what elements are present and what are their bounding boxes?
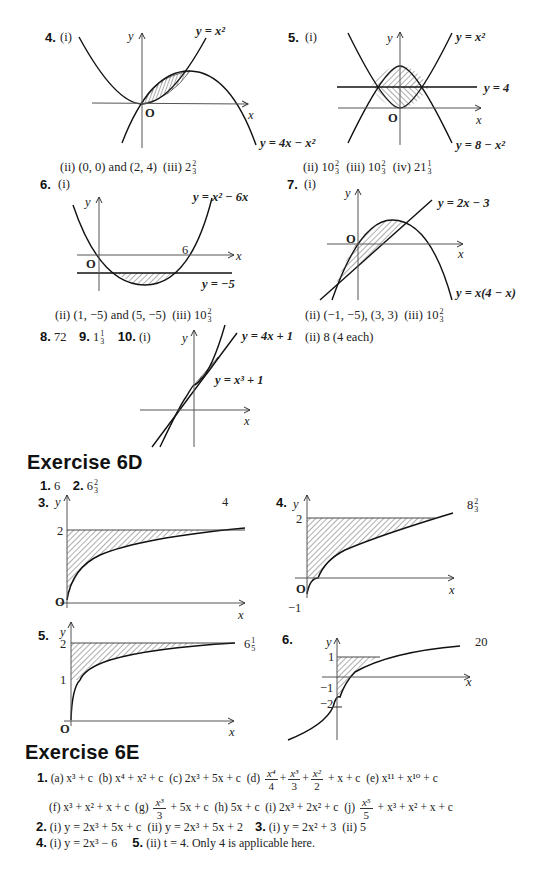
ex6d-q5-x-axis-label: x xyxy=(229,725,235,740)
ex6e-q1g-rest: + 5x + c xyxy=(170,801,208,813)
q9-answer: 1 xyxy=(93,330,99,344)
graph-ex6d-q6 xyxy=(270,620,555,740)
ex6d-q4-origin-label: O xyxy=(296,582,306,597)
ex6e-question-4-number: 4. xyxy=(36,835,47,850)
q6-y-axis-label: y xyxy=(85,195,91,210)
ex6d-q5-tick-1: 1 xyxy=(60,673,66,688)
ex6e-question-3-number: 3. xyxy=(255,819,266,834)
q10-curve-label: y = x³ + 1 xyxy=(215,373,264,388)
ex6e-question-5-number: 5. xyxy=(132,835,143,850)
q6-curve-label: y = x² − 6x xyxy=(193,190,248,205)
q10-answer-ii: (ii) 8 (4 each) xyxy=(305,330,373,345)
q10-y-axis-label: y xyxy=(182,331,188,346)
ex6e-q1h-answer: (h) 5x + c xyxy=(214,801,259,813)
q5-y-axis-label: y xyxy=(387,31,393,46)
ex6d-q4-x-axis-label: x xyxy=(449,583,455,598)
graph-ex6d-q3 xyxy=(0,490,270,600)
ex6e-q1b-answer: (b) x⁴ + x² + c xyxy=(99,772,164,784)
q5-line-label: y = 4 xyxy=(484,81,509,96)
ex6e-q1d-label: (d) xyxy=(247,772,260,784)
fraction: 23 xyxy=(208,308,212,324)
ex6e-q1d-rest: + x + c xyxy=(328,772,360,784)
ex6e-q1c-answer: (c) 2x³ + 5x + c xyxy=(169,772,241,784)
graph-q7 xyxy=(270,155,555,300)
ex6d-q3-origin-label: O xyxy=(55,595,65,610)
ex6e-q1j-label: (j) xyxy=(344,801,355,813)
q6-answer-iii: (iii) 10 xyxy=(172,308,206,322)
q7-answers: (ii) (−1, −5), (3, 3) (iii) 1023 xyxy=(305,308,445,324)
q5-origin-label: O xyxy=(388,111,398,126)
fraction: 23 xyxy=(440,308,444,324)
ex6d-q5-answer-whole: 6 xyxy=(244,637,250,651)
q7-x-axis-label: x xyxy=(458,247,464,262)
ex6e-q5-answer: (ii) t = 4. Only 4 is applicable here. xyxy=(146,836,315,850)
graph-q6 xyxy=(0,155,280,300)
graph-q5 xyxy=(270,0,555,155)
ex6e-q4-answer: (i) y = 2x³ − 6 xyxy=(50,836,117,850)
ex6e-question-1-number: 1. xyxy=(37,770,48,785)
fraction: 15 xyxy=(251,637,255,653)
exercise-6d-heading: Exercise 6D xyxy=(27,451,143,474)
q4-x-axis-label: x xyxy=(248,108,254,123)
ex6d-q3-tick-2: 2 xyxy=(57,524,63,539)
ex6e-q3-answer: (i) y = 2x² + 3 (ii) 5 xyxy=(269,820,366,834)
ex6e-q1e-answer: (e) x¹¹ + x¹⁰ + c xyxy=(366,772,438,784)
ex6d-q6-tick-minus1: −1 xyxy=(320,681,333,696)
q10-x-axis-label: x xyxy=(244,414,250,429)
q10-line-label: y = 4x + 1 xyxy=(242,329,293,344)
ex6d-q4-tick-2: 2 xyxy=(296,512,302,527)
q5-x-axis-label: x xyxy=(476,113,482,128)
ex6e-q1j-rest: + x³ + x² + x + c xyxy=(378,801,453,813)
ex6d-q6-answer: 20 xyxy=(475,635,488,650)
fraction: x³3 xyxy=(288,767,300,792)
fraction: 13 xyxy=(100,330,104,346)
q6-answers: (ii) (1, −5) and (5, −5) (iii) 1023 xyxy=(55,308,213,324)
q7-answer-ii: (ii) (−1, −5), (3, 3) xyxy=(305,308,398,322)
q6-x-axis-label: x xyxy=(236,249,242,264)
ex6d-q4-answer: 823 xyxy=(467,498,479,514)
fraction: x⁵5 xyxy=(360,796,373,821)
q7-y-axis-label: y xyxy=(345,186,351,201)
q5-curve2-label: y = 8 − x² xyxy=(456,138,505,153)
ex6e-question-2-number: 2. xyxy=(36,819,47,834)
q6-answer-ii: (ii) (1, −5) and (5, −5) xyxy=(55,308,166,322)
ex6e-q1-line2: (f) x³ + x² + x + c (g) x³3 + 5x + c (h)… xyxy=(49,796,453,821)
ex6e-q1i-answer: (i) 2x³ + 2x² + c xyxy=(265,801,338,813)
fraction: x²2 xyxy=(311,767,323,792)
ex6d-q4-y-axis-label: y xyxy=(293,497,299,512)
ex6d-q4-answer-whole: 8 xyxy=(467,498,473,512)
ex6d-q6-tick-1: 1 xyxy=(328,650,334,665)
graph-ex6d-q4 xyxy=(270,490,555,600)
question-9-number: 9. xyxy=(79,329,90,344)
graph-ex6d-q5 xyxy=(0,620,270,735)
q8-answer: 72 xyxy=(54,330,67,344)
graph-q4 xyxy=(0,0,280,155)
ex6e-q1f-answer: (f) x³ + x² + x + c xyxy=(49,801,129,813)
ex6e-q2-q3-row: 2. (i) y = 2x³ + 5x + c (ii) y = 2x³ + 5… xyxy=(36,819,366,835)
ex6d-q4-tick-minus1: −1 xyxy=(288,601,301,616)
ex6d-q5-tick-2: 2 xyxy=(60,637,66,652)
ex6d-q6-y-axis-label: y xyxy=(326,635,332,650)
fraction: x³3 xyxy=(153,796,165,821)
q6-root-6-label: 6 xyxy=(182,243,188,258)
q5-curve1-label: y = x² xyxy=(456,30,485,45)
ex6e-q1g-label: (g) xyxy=(135,801,148,813)
ex6d-q5-origin-label: O xyxy=(60,722,70,737)
ex6d-q3-answer: 4 xyxy=(222,495,228,510)
fraction: x⁴4 xyxy=(265,767,278,792)
ex6d-q6-x-axis-label: x xyxy=(466,675,472,690)
q4-y-axis-label: y xyxy=(128,29,134,44)
exercise-6e-heading: Exercise 6E xyxy=(25,741,140,764)
ex6d-q3-y-axis-label: y xyxy=(55,495,61,510)
q7-curve-label: y = x(4 − x) xyxy=(456,286,516,301)
question-8-number: 8. xyxy=(40,329,51,344)
ex6e-q2-answer: (i) y = 2x³ + 5x + c (ii) y = 2x³ + 5x +… xyxy=(50,820,243,834)
q7-line-label: y = 2x − 3 xyxy=(438,196,490,211)
ex6d-q5-answer: 615 xyxy=(244,637,256,653)
q4-origin-label: O xyxy=(145,106,155,121)
q7-origin-label: O xyxy=(346,232,356,247)
q7-answer-iii: (iii) 10 xyxy=(404,308,438,322)
ex6e-q1a-answer: (a) x³ + c xyxy=(51,772,93,784)
q6-line-label: y = −5 xyxy=(202,277,235,292)
ex6d-q6-tick-minus2: −2 xyxy=(320,697,333,712)
